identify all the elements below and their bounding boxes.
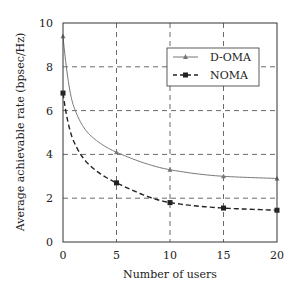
y-tick-label: 8 — [46, 61, 53, 74]
y-tick-label: 0 — [46, 236, 53, 249]
y-tick-label: 2 — [46, 192, 53, 205]
x-axis-label: Number of users — [123, 268, 217, 281]
y-tick-label: 6 — [46, 105, 53, 118]
x-tick-label: 15 — [217, 249, 231, 262]
x-tick-label: 5 — [113, 249, 120, 262]
x-tick-label: 20 — [270, 249, 284, 262]
y-axis-label: Average achievable rate (bpsec/Hz) — [14, 33, 27, 233]
y-tick-label: 4 — [46, 148, 53, 161]
legend-label-d-oma: D-OMA — [210, 51, 252, 64]
legend: D-OMA NOMA — [167, 48, 259, 86]
square-marker-icon — [221, 206, 226, 211]
x-tick-label: 0 — [60, 249, 67, 262]
square-marker-icon — [114, 180, 119, 185]
x-tick-label: 10 — [163, 249, 177, 262]
square-marker-icon — [168, 200, 173, 205]
legend-label-noma: NOMA — [210, 69, 249, 82]
y-axis-ticks: 0246810 — [39, 17, 53, 249]
x-axis-ticks: 05101520 — [60, 249, 285, 262]
y-tick-label: 10 — [39, 17, 53, 30]
line-chart: 05101520 0246810 Number of users Average… — [0, 0, 296, 299]
square-marker-icon — [183, 73, 188, 78]
